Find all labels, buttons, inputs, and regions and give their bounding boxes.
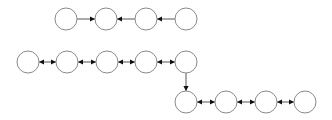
arrowhead-icon [78,59,83,64]
edge-t3-t2 [117,16,135,21]
middle-row-node-m5 [175,51,197,73]
arrowhead-icon [91,59,96,64]
arrowhead-icon [90,16,95,21]
arrowhead-icon [157,16,162,21]
arrowhead-icon [237,99,242,104]
arrowhead-icon [157,59,162,64]
arrowhead-icon [183,86,188,91]
top-row-node-t3 [135,8,157,30]
arrowhead-icon [197,99,202,104]
bottom-row-node-b4 [294,91,316,113]
edge-m1-m2-bidirectional [39,59,56,64]
edge-b3-b4-bidirectional [277,99,294,104]
arrowhead-icon [277,99,282,104]
arrowhead-icon [210,99,215,104]
edge-b1-b2-bidirectional [197,99,215,104]
edge-m3-m4-bidirectional [118,59,135,64]
arrowhead-icon [39,59,44,64]
bottom-row-node-b2 [215,91,237,113]
arrowhead-icon [51,59,56,64]
arrowhead-icon [117,16,122,21]
edge-m5-b1 [183,73,188,91]
edge-t4-t3 [157,16,175,21]
arrowhead-icon [118,59,123,64]
top-row-node-t1 [55,8,77,30]
edge-m4-m5-bidirectional [157,59,175,64]
bottom-row-node-b1 [175,91,197,113]
arrowhead-icon [250,99,255,104]
arrowhead-icon [289,99,294,104]
nodes-layer [17,8,316,113]
bottom-row-node-b3 [255,91,277,113]
edge-b2-b3-bidirectional [237,99,255,104]
linked-list-diagram [0,0,332,120]
middle-row-node-m1 [17,51,39,73]
middle-row-node-m2 [56,51,78,73]
middle-row-node-m4 [135,51,157,73]
top-row-node-t2 [95,8,117,30]
arrowhead-icon [170,59,175,64]
edge-t1-t2 [77,16,95,21]
top-row-node-t4 [175,8,197,30]
arrowhead-icon [130,59,135,64]
middle-row-node-m3 [96,51,118,73]
edge-m2-m3-bidirectional [78,59,96,64]
